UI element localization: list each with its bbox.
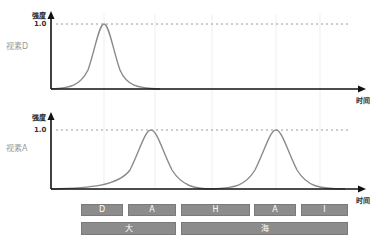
- phoneme-box-a2: A: [254, 204, 296, 216]
- viseme-a-curve-2: [212, 130, 345, 189]
- y-axis-arrow-icon: [48, 11, 55, 19]
- bottom-y-tick: 1.0: [34, 126, 46, 134]
- phoneme-box-h: H: [181, 204, 250, 216]
- bottom-x-axis-label: 时间: [356, 195, 370, 205]
- bottom-row-label: 视素A: [6, 142, 27, 153]
- top-y-axis-label: 强度: [32, 10, 46, 20]
- x-axis-arrow-icon: [358, 86, 366, 93]
- viseme-a-curve-1: [51, 130, 212, 189]
- phoneme-box-d: D: [81, 204, 123, 216]
- y-axis-arrow-icon: [48, 112, 55, 120]
- viseme-d-curve: [51, 24, 160, 89]
- phoneme-box-a: A: [128, 204, 176, 216]
- top-y-tick: 1.0: [34, 20, 46, 28]
- top-chart: [48, 11, 367, 93]
- bottom-y-axis-label: 强度: [32, 112, 46, 122]
- top-x-axis-label: 时间: [356, 95, 370, 105]
- word-box-da: 大: [81, 222, 176, 235]
- phoneme-box-i: I: [301, 204, 348, 216]
- guide-lines: [104, 14, 320, 190]
- top-row-label: 视素D: [6, 40, 28, 51]
- bottom-chart: [48, 112, 367, 193]
- x-axis-arrow-icon: [358, 186, 366, 193]
- word-box-hai: 海: [181, 222, 348, 235]
